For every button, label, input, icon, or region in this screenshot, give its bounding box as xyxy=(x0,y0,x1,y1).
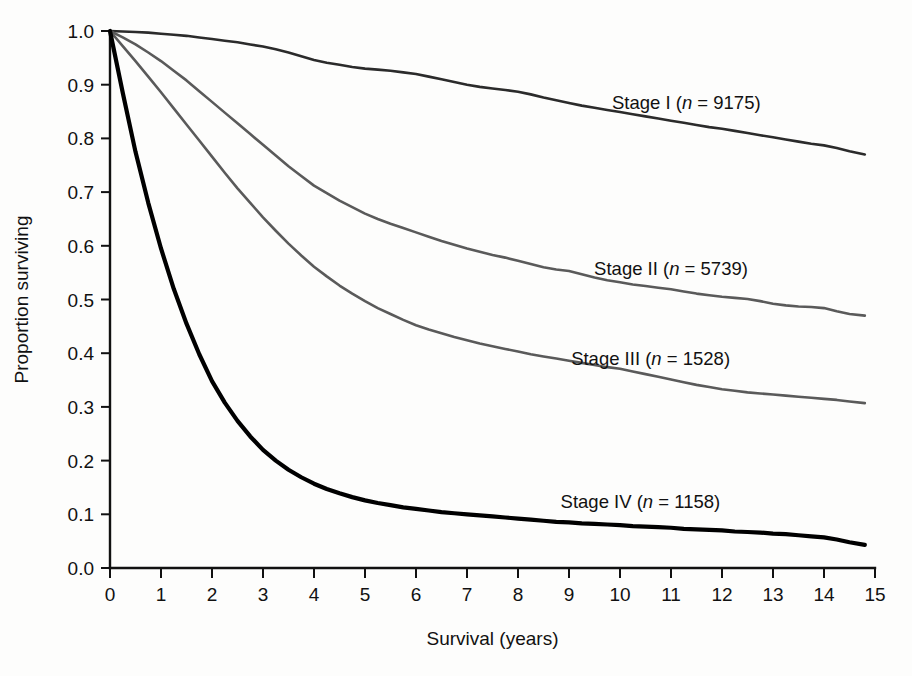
y-tick-label: 0.6 xyxy=(68,236,94,257)
series-label-stage-iv: Stage IV (n = 1158) xyxy=(561,491,721,512)
x-tick-label: 13 xyxy=(762,584,783,605)
y-tick-label: 0.9 xyxy=(68,75,94,96)
y-tick-label: 0.5 xyxy=(68,290,94,311)
x-tick-label: 10 xyxy=(609,584,630,605)
y-axis-ticks: 0.00.10.20.30.40.50.60.70.80.91.0 xyxy=(68,21,110,579)
x-tick-label: 1 xyxy=(156,584,167,605)
x-tick-label: 6 xyxy=(411,584,422,605)
y-axis-title: Proportion surviving xyxy=(11,216,32,384)
x-tick-label: 0 xyxy=(105,584,116,605)
series-label-group: Stage I (n = 9175)Stage II (n = 5739)Sta… xyxy=(561,92,761,512)
y-tick-label: 0.2 xyxy=(68,451,94,472)
x-tick-label: 2 xyxy=(207,584,218,605)
x-tick-label: 7 xyxy=(462,584,473,605)
x-tick-label: 11 xyxy=(661,584,681,605)
x-tick-label: 9 xyxy=(564,584,575,605)
x-tick-label: 3 xyxy=(258,584,269,605)
chart-canvas: 0.00.10.20.30.40.50.60.70.80.91.0 012345… xyxy=(0,0,912,676)
x-axis-title: Survival (years) xyxy=(427,628,559,649)
y-tick-label: 0.0 xyxy=(68,558,94,579)
y-tick-label: 0.7 xyxy=(68,182,94,203)
survival-curve-stage-ii xyxy=(110,31,865,316)
y-tick-label: 0.8 xyxy=(68,128,94,149)
series-label-stage-i: Stage I (n = 9175) xyxy=(612,92,761,113)
series-label-stage-iii: Stage III (n = 1528) xyxy=(571,348,730,369)
x-tick-label: 15 xyxy=(864,584,885,605)
x-tick-label: 8 xyxy=(513,584,524,605)
y-tick-label: 0.3 xyxy=(68,397,94,418)
x-tick-label: 14 xyxy=(813,584,835,605)
y-tick-label: 1.0 xyxy=(68,21,94,42)
survival-chart-figure: 0.00.10.20.30.40.50.60.70.80.91.0 012345… xyxy=(0,0,912,676)
x-tick-label: 4 xyxy=(309,584,320,605)
series-label-stage-ii: Stage II (n = 5739) xyxy=(594,258,748,279)
y-tick-label: 0.1 xyxy=(68,504,94,525)
x-tick-label: 12 xyxy=(711,584,732,605)
x-axis-ticks: 0123456789101112131415 xyxy=(105,568,886,605)
x-tick-label: 5 xyxy=(360,584,371,605)
y-tick-label: 0.4 xyxy=(68,343,95,364)
